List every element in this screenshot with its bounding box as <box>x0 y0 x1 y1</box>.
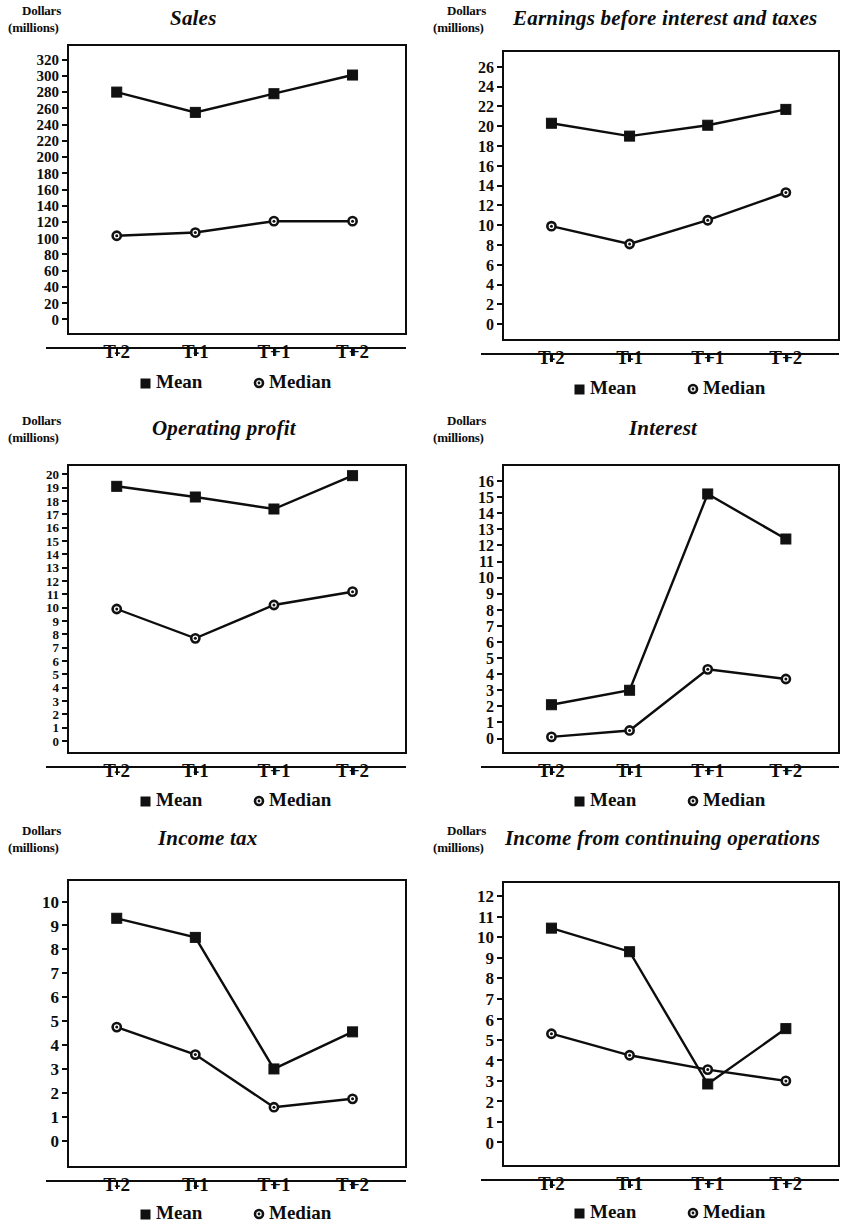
legend-label-mean: Mean <box>156 1202 203 1223</box>
data-point-mean <box>625 131 635 141</box>
y-tick-label: 12 <box>46 574 59 589</box>
data-point-mean <box>190 107 200 117</box>
y-tick-label: 11 <box>479 553 494 570</box>
y-tick-label: 3 <box>486 1072 495 1091</box>
data-point-median-core <box>706 219 709 222</box>
data-point-median-core <box>351 590 354 593</box>
y-tick-label: 9 <box>51 917 60 936</box>
x-tick-label: T+1 <box>257 760 290 781</box>
y-tick-label: 13 <box>46 560 60 575</box>
data-point-median-core <box>628 729 631 732</box>
y-tick-label: 0 <box>486 316 494 333</box>
y-tick-label: 8 <box>53 627 60 642</box>
y-tick-label: 13 <box>478 521 494 538</box>
y-tick-label: 17 <box>46 507 60 522</box>
data-point-mean <box>703 489 713 499</box>
legend-label-mean: Mean <box>156 371 203 392</box>
data-point-median-core <box>550 1032 553 1035</box>
y-tick-label: 20 <box>478 118 494 135</box>
data-point-median-core <box>706 1068 709 1071</box>
data-point-median-core <box>194 1053 197 1056</box>
data-point-median-core <box>194 637 197 640</box>
y-tick-label: 100 <box>37 231 60 247</box>
data-point-mean <box>546 700 556 710</box>
data-point-median-core <box>115 1026 118 1029</box>
y-tick-label: 220 <box>37 133 60 149</box>
x-tick-label: T-2 <box>103 341 130 362</box>
y-tick-label: 2 <box>486 698 494 715</box>
y-tick-label: 6 <box>486 1011 495 1030</box>
data-point-median-core <box>351 220 354 223</box>
y-tick-label: 9 <box>486 949 495 968</box>
data-point-median-core <box>784 191 787 194</box>
y-tick-label: 4 <box>486 666 494 683</box>
x-tick-label: T-1 <box>182 341 209 362</box>
panel-income-tax: Dollars (millions) Income tax 0123456789… <box>0 820 425 1224</box>
data-point-mean <box>269 89 279 99</box>
chart-svg-operating-profit: 01234567891011121314151617181920T-2T-1T+… <box>0 410 425 820</box>
data-point-mean <box>781 534 791 544</box>
x-tick-label: T-1 <box>182 1174 209 1195</box>
chart-svg-income-continuing-operations: 0123456789101112T-2T-1T+1T+2MeanMedian <box>425 820 851 1224</box>
y-tick-label: 11 <box>47 587 59 602</box>
y-tick-label: 4 <box>486 1052 495 1071</box>
data-point-mean <box>781 104 791 114</box>
y-tick-label: 5 <box>486 650 494 667</box>
legend-marker-mean <box>141 1210 150 1219</box>
y-tick-label: 10 <box>46 600 59 615</box>
y-tick-label: 0 <box>486 730 494 747</box>
y-tick-label: 26 <box>478 59 494 76</box>
y-tick-label: 260 <box>37 101 60 117</box>
data-point-mean <box>781 1024 791 1034</box>
y-tick-label: 2 <box>51 1084 60 1103</box>
y-tick-label: 14 <box>478 505 494 522</box>
data-point-mean <box>269 1064 279 1074</box>
data-point-median-core <box>194 231 197 234</box>
legend-marker-median-core <box>258 800 261 803</box>
data-point-mean <box>348 1027 358 1037</box>
legend-marker-median-core <box>258 1213 261 1216</box>
legend-marker-median-core <box>692 1212 695 1215</box>
x-tick-label: T+2 <box>336 341 369 362</box>
y-tick-label: 14 <box>46 547 60 562</box>
panel-income-continuing-operations: Dollars (millions) Income from continuin… <box>425 820 851 1224</box>
data-point-mean <box>546 923 556 933</box>
data-point-median-core <box>272 604 275 607</box>
x-tick-label: T-1 <box>616 760 643 781</box>
legend-label-mean: Mean <box>590 1201 637 1222</box>
chart-svg-interest: 012345678910111213141516T-2T-1T+1T+2Mean… <box>425 410 851 820</box>
x-tick-label: T-1 <box>616 347 643 368</box>
panel-sales: Dollars (millions) Sales 020406080100120… <box>0 0 425 410</box>
y-tick-label: 7 <box>486 618 494 635</box>
legend-marker-median-core <box>258 382 261 385</box>
y-tick-label: 5 <box>51 1012 60 1031</box>
y-tick-label: 18 <box>478 138 494 155</box>
y-tick-label: 320 <box>37 52 60 68</box>
x-tick-label: T-1 <box>182 760 209 781</box>
data-point-median-core <box>784 1079 787 1082</box>
x-tick-label: T+1 <box>257 341 290 362</box>
x-tick-label: T-2 <box>103 760 130 781</box>
y-tick-label: 24 <box>478 78 494 95</box>
x-tick-label: T+1 <box>691 760 724 781</box>
y-tick-label: 20 <box>44 296 59 312</box>
data-point-median-core <box>115 608 118 611</box>
data-point-median-core <box>550 225 553 228</box>
y-tick-label: 3 <box>51 1060 60 1079</box>
y-tick-label: 0 <box>52 312 60 328</box>
chart-svg-income-tax: 012345678910T-2T-1T+1T+2MeanMedian <box>0 820 425 1224</box>
data-point-mean <box>190 492 200 502</box>
y-tick-label: 6 <box>486 634 494 651</box>
x-tick-label: T+2 <box>769 760 802 781</box>
data-point-mean <box>112 87 122 97</box>
data-point-mean <box>625 947 635 957</box>
y-tick-label: 12 <box>478 197 494 214</box>
y-tick-label: 10 <box>42 893 59 912</box>
y-tick-label: 2 <box>486 296 494 313</box>
data-point-median-core <box>115 234 118 237</box>
y-tick-label: 11 <box>478 908 494 927</box>
x-tick-label: T+2 <box>769 1173 802 1194</box>
y-tick-label: 4 <box>51 1036 60 1055</box>
y-tick-label: 18 <box>46 494 60 509</box>
legend-label-mean: Mean <box>590 377 637 398</box>
